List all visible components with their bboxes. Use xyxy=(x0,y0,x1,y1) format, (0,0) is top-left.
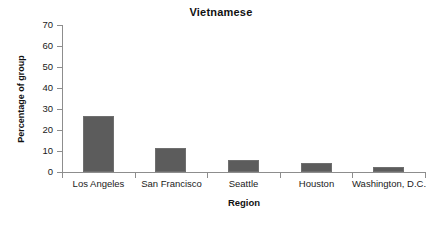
bar xyxy=(155,148,186,172)
x-axis-line xyxy=(62,172,426,173)
bar xyxy=(301,163,332,172)
y-axis-tick-label: 0 xyxy=(13,167,53,177)
y-axis-tick-label: 20 xyxy=(13,125,53,135)
x-axis-category-label: Houston xyxy=(280,179,353,189)
y-axis-tick-label: 70 xyxy=(13,20,53,30)
bar xyxy=(373,167,404,172)
x-axis-category-label: Washington, D.C. xyxy=(352,179,425,189)
x-axis-category-label: San Francisco xyxy=(135,179,208,189)
bar xyxy=(83,116,114,172)
y-axis-tick xyxy=(57,109,62,110)
bar-chart-figure: Vietnamese Percentage of group 706050403… xyxy=(0,0,442,228)
bar xyxy=(228,160,259,172)
x-axis-tick xyxy=(280,173,281,178)
x-axis-tick xyxy=(62,173,63,178)
y-axis-line xyxy=(62,25,63,173)
x-axis-tick xyxy=(135,173,136,178)
x-axis-tick xyxy=(207,173,208,178)
y-axis-tick-label: 50 xyxy=(13,62,53,72)
y-axis-tick-label: 10 xyxy=(13,146,53,156)
x-axis-category-label: Seattle xyxy=(207,179,280,189)
chart-title: Vietnamese xyxy=(0,6,442,18)
y-axis-tick xyxy=(57,151,62,152)
x-axis-category-label: Los Angeles xyxy=(62,179,135,189)
x-axis-title: Region xyxy=(62,197,426,208)
y-axis-tick xyxy=(57,130,62,131)
y-axis-tick-label: 60 xyxy=(13,41,53,51)
y-axis-tick xyxy=(57,25,62,26)
y-axis-tick xyxy=(57,67,62,68)
y-axis-tick-label: 30 xyxy=(13,104,53,114)
y-axis-tick-label: 40 xyxy=(13,83,53,93)
y-axis-tick xyxy=(57,88,62,89)
y-axis-tick xyxy=(57,46,62,47)
